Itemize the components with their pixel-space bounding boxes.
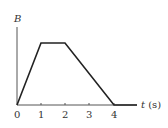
tick-label-3: 3 bbox=[86, 109, 92, 120]
x-axis-label: t (s) bbox=[141, 99, 161, 110]
tick-label-2: 2 bbox=[62, 109, 68, 120]
tick-label-1: 1 bbox=[38, 109, 44, 120]
x-axis-unit: (s) bbox=[145, 99, 161, 110]
y-axis-label: B bbox=[14, 13, 21, 24]
tick-label-4: 4 bbox=[111, 109, 117, 120]
tick-label-0: 0 bbox=[14, 109, 20, 120]
b-series-line bbox=[17, 43, 137, 105]
